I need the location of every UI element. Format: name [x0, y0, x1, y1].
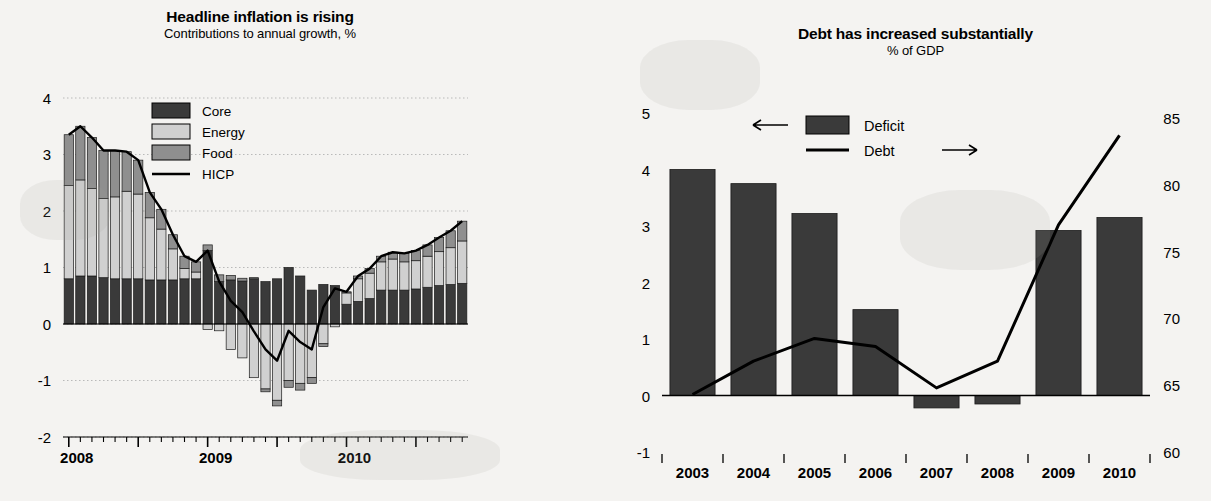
bar-segment-food: [272, 400, 281, 406]
bar-segment-energy: [122, 191, 131, 279]
legend-label-deficit: Deficit: [864, 118, 904, 134]
bar-segment-food: [307, 378, 316, 384]
y-axis-tick-label: -2: [38, 429, 51, 446]
left-y-axis-labels: 543210-1: [637, 105, 650, 461]
bar-segment-energy: [157, 229, 166, 280]
deficit-bar: [914, 396, 959, 408]
bar-segment-food: [122, 152, 131, 192]
bar-segment-food: [296, 383, 305, 390]
bar-segment-core: [284, 268, 293, 325]
bar-segment-energy: [458, 241, 467, 283]
bar-segment-core: [180, 279, 189, 324]
deficit-bar: [853, 310, 898, 396]
bar-segment-energy: [423, 256, 432, 287]
left-y-axis-tick-label: 1: [642, 331, 650, 348]
debt-chart-panel: Debt has increased substantially % of GD…: [620, 0, 1211, 501]
bar-segment-food: [319, 344, 328, 347]
x-axis-year-label: 2009: [199, 449, 232, 466]
y-axis-tick-label: 0: [43, 316, 51, 333]
bar-segment-core: [134, 279, 143, 324]
bar-segment-energy: [110, 197, 119, 279]
bar-segment-energy: [134, 194, 143, 279]
bar-segment-energy: [64, 186, 73, 279]
deficit-bar: [731, 184, 776, 396]
left-arrow-icon: [753, 120, 788, 130]
legend-swatch-deficit: [806, 116, 849, 134]
bar-segment-core: [157, 280, 166, 324]
x-axis-year-label: 2005: [798, 464, 831, 481]
y-axis-labels: 43210-1-2: [38, 90, 51, 446]
bar-segment-energy: [319, 324, 328, 344]
left-y-axis-tick-label: 3: [642, 218, 650, 235]
x-axis-ticks: [662, 454, 1150, 463]
debt-plot: 543210-185807570656020032004200520062007…: [620, 0, 1211, 501]
bar-segment-food: [238, 278, 247, 281]
bar-segment-food: [400, 253, 409, 261]
right-arrow-icon: [942, 145, 977, 155]
right-chart-legend: DeficitDebt: [753, 116, 977, 159]
bar-segment-energy: [203, 324, 212, 330]
inflation-plot: 43210-1-2200820092010CoreEnergyFoodHICP: [0, 0, 620, 501]
bar-segment-food: [284, 381, 293, 388]
bar-segment-energy: [238, 324, 247, 358]
bar-segment-core: [423, 287, 432, 324]
bar-segment-energy: [226, 324, 235, 349]
x-axis-year-label: 2004: [737, 464, 771, 481]
left-y-axis-tick-label: 4: [642, 162, 650, 179]
bar-segment-core: [261, 282, 270, 324]
bar-segment-energy: [434, 252, 443, 286]
bar-segment-core: [110, 279, 119, 324]
right-y-axis-tick-label: 80: [1163, 177, 1180, 194]
left-y-axis-tick-label: -1: [637, 444, 650, 461]
bar-segment-food: [134, 160, 143, 194]
x-axis-year-label: 2009: [1042, 464, 1075, 481]
bar-segment-food: [87, 138, 96, 189]
bar-segment-food: [261, 389, 270, 392]
bar-segment-core: [296, 276, 305, 324]
bar-segment-core: [388, 290, 397, 324]
x-axis-year-label: 2010: [1103, 464, 1136, 481]
bar-segment-energy: [377, 262, 386, 290]
bar-segment-food: [249, 278, 258, 279]
bar-segment-energy: [180, 269, 189, 279]
bar-segment-energy: [145, 218, 154, 280]
bar-segment-energy: [388, 259, 397, 290]
bar-segment-core: [87, 276, 96, 324]
bar-segment-food: [110, 151, 119, 197]
inflation-chart-panel: Headline inflation is rising Contributio…: [0, 0, 620, 501]
right-y-axis-tick-label: 70: [1163, 310, 1180, 327]
x-axis-year-label: 2003: [676, 464, 709, 481]
bar-segment-energy: [365, 273, 374, 298]
x-axis-year-label: 2010: [338, 449, 371, 466]
legend-label-food: Food: [202, 146, 233, 161]
bar-segment-core: [353, 301, 362, 324]
bar-segment-core: [76, 276, 85, 324]
right-y-axis-tick-label: 85: [1163, 110, 1180, 127]
bar-segment-core: [330, 286, 339, 324]
stacked-bars: [64, 126, 467, 406]
bar-segment-core: [400, 290, 409, 324]
bar-segment-core: [342, 304, 351, 324]
bar-segment-energy: [296, 324, 305, 383]
deficit-bar: [975, 396, 1020, 404]
right-y-axis-tick-label: 65: [1163, 377, 1180, 394]
legend-swatch-energy: [152, 124, 190, 139]
x-axis-year-label: 2008: [981, 464, 1014, 481]
bar-segment-food: [64, 135, 73, 186]
bar-segment-core: [365, 299, 374, 324]
bar-segment-energy: [191, 272, 200, 279]
x-axis-year-label: 2006: [859, 464, 892, 481]
bar-segment-food: [76, 126, 85, 180]
bar-segment-energy: [272, 324, 281, 400]
bar-segment-energy: [342, 293, 351, 304]
bar-segment-core: [458, 283, 467, 324]
x-axis-year-labels: 20032004200520062007200820092010: [676, 464, 1136, 481]
bar-segment-core: [249, 279, 258, 324]
left-y-axis-tick-label: 5: [642, 105, 650, 122]
legend-swatch-core: [152, 103, 190, 118]
bar-segment-food: [226, 275, 235, 280]
legend-label-energy: Energy: [202, 125, 245, 140]
bar-segment-core: [377, 290, 386, 324]
x-axis-year-label: 2007: [920, 464, 953, 481]
deficit-bar: [1097, 218, 1142, 396]
